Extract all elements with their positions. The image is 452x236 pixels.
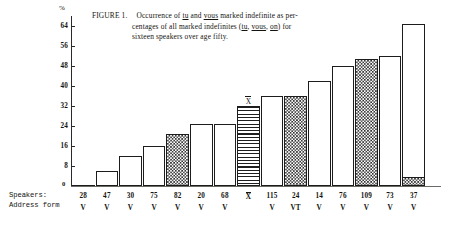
address-form-label: V <box>261 203 284 213</box>
address-form-label: V <box>72 203 95 213</box>
x-axis-column: X <box>237 192 260 204</box>
x-axis-column: 47V <box>96 192 119 213</box>
bar <box>119 156 142 186</box>
address-form-label: V <box>379 203 402 213</box>
x-axis-column: 28V <box>72 192 95 213</box>
speaker-label: 30 <box>119 192 142 201</box>
bar <box>379 56 402 186</box>
speaker-label: 37 <box>402 192 425 201</box>
address-form-label: V <box>355 203 378 213</box>
bar <box>332 66 355 186</box>
bar <box>214 124 237 187</box>
row-label-address-form: Address form <box>9 201 60 211</box>
x-axis-column: 75V <box>143 192 166 213</box>
x-axis-column: 115V <box>261 192 284 213</box>
speaker-label: X <box>237 192 260 202</box>
mean-marker-label: X <box>246 97 251 106</box>
address-form-label: V <box>119 203 142 213</box>
speaker-label: 47 <box>96 192 119 201</box>
axis-row-labels: Speakers: Address form <box>9 191 60 210</box>
y-tick-label: 56 <box>48 42 68 50</box>
speaker-label: 14 <box>308 192 331 201</box>
y-tick-label: 8 <box>48 162 68 170</box>
address-form-label: V <box>143 203 166 213</box>
bar <box>355 59 378 187</box>
speaker-label: 109 <box>355 192 378 201</box>
x-axis-column: 109V <box>355 192 378 213</box>
address-form-label: VT <box>284 203 307 213</box>
address-form-label: V <box>96 203 119 213</box>
bar <box>166 134 189 187</box>
address-form-label: V <box>214 203 237 213</box>
y-tick-label: 24 <box>48 122 68 130</box>
address-form-label: V <box>402 203 425 213</box>
bar <box>190 124 213 187</box>
speaker-label: 73 <box>379 192 402 201</box>
address-form-label: V <box>166 203 189 213</box>
mean-marker: X <box>237 96 260 105</box>
x-axis-column: 24VT <box>284 192 307 213</box>
bar <box>143 146 166 186</box>
bar <box>402 24 425 187</box>
speaker-label: 82 <box>166 192 189 201</box>
y-axis-zero-label: 0 <box>62 180 65 187</box>
bar <box>237 106 260 186</box>
y-tick-label: 32 <box>48 102 68 110</box>
y-tick-label: 48 <box>48 62 68 70</box>
bar-segment-foot <box>403 177 424 186</box>
y-axis-unit-label: % <box>59 4 65 12</box>
y-tick-label: 16 <box>48 142 68 150</box>
speaker-label: 75 <box>143 192 166 201</box>
x-axis-column: 37V <box>402 192 425 213</box>
x-axis-column: 82V <box>166 192 189 213</box>
row-label-speakers: Speakers: <box>9 191 60 201</box>
bar <box>284 96 307 186</box>
y-tick-label: 40 <box>48 82 68 90</box>
x-axis-column: 30V <box>119 192 142 213</box>
x-axis-column: 68V <box>214 192 237 213</box>
bar <box>72 185 95 186</box>
y-tick-label: 64 <box>48 22 68 30</box>
bar <box>261 96 284 186</box>
bar-chart-figure: FIGURE 1.Occurrence of tu and vous marke… <box>0 0 452 236</box>
x-axis-line <box>71 186 441 187</box>
speaker-label: 68 <box>214 192 237 201</box>
address-form-label: V <box>332 203 355 213</box>
speaker-label: 115 <box>261 192 284 201</box>
x-axis-column: 14V <box>308 192 331 213</box>
mean-overbar <box>246 192 251 193</box>
bar <box>96 171 119 186</box>
x-axis-column: 73V <box>379 192 402 213</box>
speaker-label: 24 <box>284 192 307 201</box>
address-form-label: V <box>190 203 213 213</box>
speaker-label: 76 <box>332 192 355 201</box>
x-axis-column: 20V <box>190 192 213 213</box>
address-form-label: V <box>308 203 331 213</box>
bars-group: X <box>72 16 440 186</box>
bar <box>308 81 331 186</box>
x-axis-column: 76V <box>332 192 355 213</box>
speaker-label: 20 <box>190 192 213 201</box>
x-axis-labels: 28V47V30V75V82V20V68VX115V24VT14V76V109V… <box>72 192 440 220</box>
speaker-label: 28 <box>72 192 95 201</box>
